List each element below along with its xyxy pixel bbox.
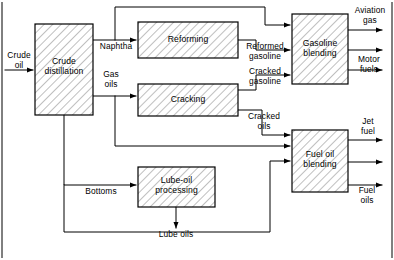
unit-label-reforming: Reforming [138,34,238,44]
stream-label-gas-oils: Gas oils [96,70,126,90]
unit-label-crude-distillation: Crude distillation [35,56,93,76]
stream-label-fuel-oils: Fuel oils [350,186,384,206]
unit-label-lube-oil-processing: Lube-oil processing [138,175,215,195]
unit-label-cracking: Cracking [138,94,238,104]
stream-label-crude-oil: Crude oil [1,51,37,71]
stream-label-bottoms: Bottoms [76,187,126,197]
line-bottoms [64,115,136,185]
process-flow-diagram: Crude distillation Reforming Cracking Ga… [0,0,394,260]
stream-label-cracked-oils: Cracked oils [240,112,288,132]
stream-label-aviation-gas: Aviation gas [348,6,392,26]
stream-label-naphtha: Naphtha [94,42,138,52]
unit-label-fuel-oil-blending: Fuel oil blending [292,149,348,169]
stream-label-reformed-gasoline: Reformed gasoline [240,42,290,62]
stream-label-jet-fuel: Jet fuel [352,117,384,137]
stream-label-lube-oils: Lube oils [148,230,204,240]
unit-label-gasoline-blending: Gasoline blending [292,38,348,58]
stream-label-cracked-gasoline: Cracked gasoline [240,67,290,87]
stream-label-motor-fuels: Motor fuels [350,55,388,75]
